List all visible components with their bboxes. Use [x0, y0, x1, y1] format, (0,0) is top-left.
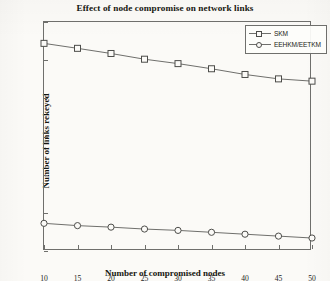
- data-point-square-icon: [142, 56, 148, 62]
- data-point-circle-icon: [74, 223, 80, 229]
- figure-page: Effect of node compromise on network lin…: [0, 0, 330, 281]
- x-tick-mark: [111, 245, 112, 249]
- legend-item-eehkm-eetkm: EEHKM/EETKM: [249, 39, 323, 50]
- x-tick-mark: [312, 245, 313, 249]
- x-tick-mark: [145, 245, 146, 249]
- data-point-circle-icon: [108, 224, 114, 230]
- y-tick-mark: [44, 22, 48, 23]
- y-tick-mark: [44, 98, 48, 99]
- y-tick-mark: [44, 60, 48, 61]
- x-tick-mark: [212, 245, 213, 249]
- data-point-circle-icon: [275, 233, 281, 239]
- data-point-square-icon: [242, 71, 248, 77]
- data-point-circle-icon: [208, 229, 214, 235]
- series-eehkm-eetkm: [41, 220, 315, 241]
- data-point-square-icon: [309, 78, 315, 84]
- data-point-circle-icon: [309, 235, 315, 241]
- x-tick-mark: [78, 245, 79, 249]
- data-point-square-icon: [108, 50, 114, 56]
- x-tick-mark: [279, 245, 280, 249]
- y-axis-label-container: Number of links rekeyed: [0, 0, 16, 281]
- legend-swatch-circle-icon: [249, 40, 271, 49]
- data-point-circle-icon: [242, 231, 248, 237]
- y-tick-mark: [44, 137, 48, 138]
- legend-label: EEHKM/EETKM: [274, 41, 321, 48]
- legend-swatch-square-icon: [249, 29, 271, 38]
- data-point-square-icon: [175, 61, 181, 67]
- data-point-circle-icon: [175, 227, 181, 233]
- x-axis-label: Number of compromised nodes: [0, 268, 330, 278]
- data-point-circle-icon: [141, 226, 147, 232]
- data-point-square-icon: [276, 76, 282, 82]
- legend: SKM EEHKM/EETKM: [245, 25, 327, 54]
- data-point-circle-icon: [41, 220, 47, 226]
- series-layer: [44, 22, 312, 251]
- y-tick-mark: [44, 175, 48, 176]
- plot-frame: 800100012001400160018002000 101520253035…: [43, 21, 311, 250]
- x-tick-mark: [178, 245, 179, 249]
- chart-title: Effect of node compromise on network lin…: [0, 3, 330, 13]
- x-tick-mark: [44, 245, 45, 249]
- data-point-square-icon: [75, 45, 81, 51]
- data-point-square-icon: [41, 40, 47, 46]
- y-tick-mark: [44, 251, 48, 252]
- x-tick-mark: [245, 245, 246, 249]
- data-point-square-icon: [209, 66, 215, 72]
- legend-item-skm: SKM: [249, 28, 323, 39]
- plot-area: [44, 22, 310, 249]
- legend-label: SKM: [274, 30, 288, 37]
- y-tick-mark: [44, 213, 48, 214]
